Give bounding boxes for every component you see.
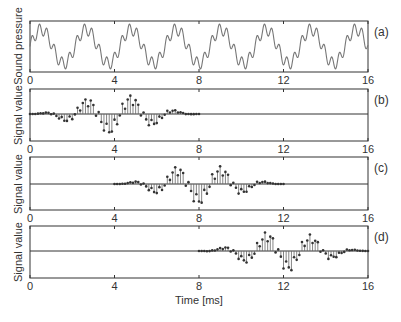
panel-c-label: (c) <box>374 161 388 175</box>
x-tick-label: 4 <box>111 212 117 224</box>
x-tick-label: 4 <box>111 280 117 292</box>
panel-c-ylabel: Signal value <box>12 154 24 214</box>
panel-d-ticks: 0481216 <box>27 226 374 292</box>
x-tick-label: 8 <box>196 212 202 224</box>
x-axis-label: Time [ms] <box>175 294 223 306</box>
x-tick-label: 12 <box>277 280 289 292</box>
panel-b-label: (b) <box>374 93 389 107</box>
panel-c-ticks: 0481216 <box>27 157 374 224</box>
x-tick-label: 0 <box>27 212 33 224</box>
panel-a-ticks: 0481216 <box>27 21 374 86</box>
panel-b: 0481216 Signal value (b) <box>12 85 389 155</box>
x-tick-label: 12 <box>277 74 289 86</box>
x-tick-label: 16 <box>362 280 374 292</box>
x-tick-label: 8 <box>196 143 202 155</box>
panel-d: 0481216 Signal value (d) <box>12 222 389 292</box>
x-tick-label: 4 <box>111 74 117 86</box>
figure: 0481216 Sound pressure (a) 0481216 Signa… <box>0 0 401 322</box>
x-tick-label: 0 <box>27 143 33 155</box>
panel-a: 0481216 Sound pressure (a) <box>12 7 389 86</box>
x-tick-label: 12 <box>277 212 289 224</box>
x-tick-label: 16 <box>362 143 374 155</box>
panel-a-label: (a) <box>374 25 389 39</box>
x-tick-label: 16 <box>362 212 374 224</box>
panel-d-ylabel: Signal value <box>12 222 24 282</box>
x-tick-label: 0 <box>27 74 33 86</box>
x-tick-label: 12 <box>277 143 289 155</box>
panel-d-label: (d) <box>374 230 389 244</box>
x-tick-label: 0 <box>27 280 33 292</box>
panel-b-ticks: 0481216 <box>27 89 374 155</box>
x-tick-label: 8 <box>196 74 202 86</box>
panel-b-ylabel: Signal value <box>12 85 24 145</box>
panel-a-waveform <box>30 24 368 69</box>
x-tick-label: 4 <box>111 143 117 155</box>
panel-c: 0481216 Signal value (c) <box>12 154 388 224</box>
x-tick-label: 8 <box>196 280 202 292</box>
panel-a-ylabel: Sound pressure <box>12 7 24 85</box>
x-tick-label: 16 <box>362 74 374 86</box>
